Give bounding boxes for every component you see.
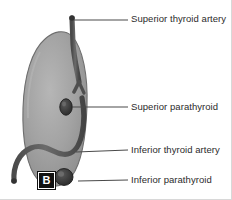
- inferior-parathyroid-gland: [55, 169, 73, 186]
- label-inferior-parathyroid: Inferior parathyroid: [131, 174, 212, 185]
- thyroid-lobe: [23, 32, 87, 187]
- anatomy-figure-panel-b: Superior thyroid artery Superior parathy…: [0, 0, 232, 200]
- leader-line-inferior-thyroid-artery: [76, 150, 128, 152]
- label-inferior-thyroid-artery: Inferior thyroid artery: [131, 144, 220, 155]
- label-superior-thyroid-artery: Superior thyroid artery: [131, 13, 226, 24]
- thyroid-anatomy-illustration: [0, 0, 232, 200]
- superior-parathyroid-gland: [60, 99, 72, 115]
- panel-letter-badge: B: [38, 172, 55, 189]
- leader-line-inferior-parathyroid: [78, 180, 128, 181]
- label-superior-parathyroid: Superior parathyroid: [131, 101, 218, 112]
